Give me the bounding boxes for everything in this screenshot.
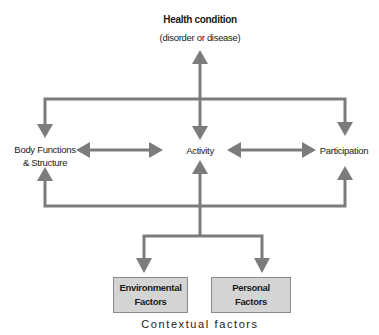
arrowhead-down-environmental	[136, 258, 152, 273]
arrowhead-down-activity	[192, 126, 208, 140]
node-body-functions: Body Functions & Structure	[8, 143, 82, 169]
contextual-factors-label: Contextual factors	[120, 318, 280, 330]
body-functions-line2: & Structure	[8, 156, 82, 169]
arrowhead-up-body	[37, 167, 53, 181]
arrowhead-right-activity	[149, 142, 163, 158]
node-activity: Activity	[180, 144, 220, 157]
bottom-bus-line	[45, 178, 345, 206]
environmental-line2: Factors	[119, 295, 181, 309]
node-environmental-factors: Environmental Factors	[113, 277, 188, 313]
arrowhead-left-activity	[227, 142, 241, 158]
arrowhead-down-participation	[337, 122, 353, 136]
context-branch-line	[144, 236, 262, 260]
environmental-line1: Environmental	[119, 281, 181, 295]
arrowhead-up-activity	[192, 160, 208, 174]
arrowhead-down-personal	[254, 258, 270, 273]
arrowhead-up-health	[192, 50, 208, 64]
top-bus-line	[45, 99, 345, 127]
arrowhead-right-participation	[302, 142, 316, 158]
health-condition-title: Health condition	[150, 13, 250, 26]
body-functions-line1: Body Functions	[8, 143, 82, 156]
node-participation: Participation	[316, 144, 372, 157]
node-personal-factors: Personal Factors	[211, 277, 291, 313]
health-condition-subtitle: (disorder or disease)	[140, 31, 260, 44]
arrowhead-up-participation	[337, 166, 353, 180]
arrowhead-down-body	[37, 124, 53, 138]
personal-line2: Factors	[232, 295, 270, 309]
personal-line1: Personal	[232, 281, 270, 295]
